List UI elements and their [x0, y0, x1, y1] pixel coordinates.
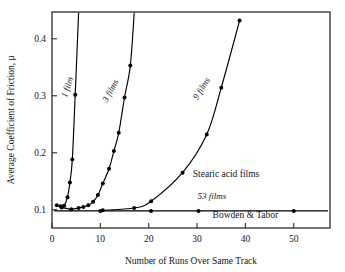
data-point — [196, 209, 200, 213]
x-axis-ticks: 01020304050 — [50, 223, 299, 244]
x-tick-label: 20 — [144, 234, 154, 244]
data-point — [86, 203, 90, 207]
x-tick-label: 30 — [192, 234, 202, 244]
series-curve-3-films — [62, 13, 135, 209]
plot-frame — [52, 12, 330, 228]
data-point — [205, 133, 209, 137]
data-point — [238, 19, 242, 23]
y-tick-label: 0.3 — [34, 91, 46, 101]
y-axis-title: Average Coefficient of Friction, μ — [6, 56, 16, 185]
data-point — [96, 193, 100, 197]
curve-label-3-films: 3 films — [100, 77, 121, 104]
curve-label-9-films: 9 films — [191, 75, 213, 101]
data-points-layer — [55, 19, 296, 213]
data-point — [112, 149, 116, 153]
data-point — [68, 180, 72, 184]
curve-labels-layer: 1 film3 films9 films53 films — [59, 75, 227, 201]
x-tick-label: 0 — [50, 234, 55, 244]
plot-border — [52, 12, 330, 228]
data-point — [60, 205, 64, 209]
y-tick-label: 0.2 — [34, 148, 46, 158]
chart-canvas: 01020304050 0.10.20.30.4 1 film3 films9 … — [0, 0, 345, 272]
series-curve-9-films — [103, 21, 240, 211]
data-point — [101, 182, 105, 186]
x-axis-title: Number of Runs Over Same Track — [125, 256, 257, 266]
data-point — [81, 205, 85, 209]
annotation-bowden: Bowden & Tabor — [213, 210, 279, 220]
data-point — [98, 209, 102, 213]
data-point — [219, 86, 223, 90]
x-tick-label: 50 — [289, 234, 299, 244]
data-point — [123, 95, 127, 99]
y-tick-label: 0.1 — [34, 205, 46, 215]
series-layer — [54, 13, 327, 211]
data-point — [149, 199, 153, 203]
data-point — [149, 209, 153, 213]
data-point — [128, 64, 132, 68]
data-point — [91, 200, 95, 204]
data-point — [69, 207, 73, 211]
curve-label-53-films: 53 films — [198, 191, 227, 201]
data-point — [132, 206, 136, 210]
series-curve-1-film — [57, 13, 79, 207]
friction-chart-figure: 01020304050 0.10.20.30.4 1 film3 films9 … — [0, 0, 345, 272]
data-point — [292, 209, 296, 213]
curve-label-1-film: 1 film — [59, 75, 75, 98]
x-tick-label: 10 — [96, 234, 106, 244]
y-axis-ticks: 0.10.20.30.4 — [34, 34, 57, 215]
y-tick-label: 0.4 — [34, 34, 46, 44]
data-point — [107, 167, 111, 171]
data-point — [117, 131, 121, 135]
data-point — [181, 171, 185, 175]
x-tick-label: 40 — [241, 234, 251, 244]
data-point — [70, 158, 74, 162]
data-point — [73, 93, 77, 97]
annotation-stearic: Stearic acid films — [193, 169, 260, 179]
data-point — [55, 203, 59, 207]
data-point — [77, 206, 81, 210]
data-point — [65, 195, 69, 199]
